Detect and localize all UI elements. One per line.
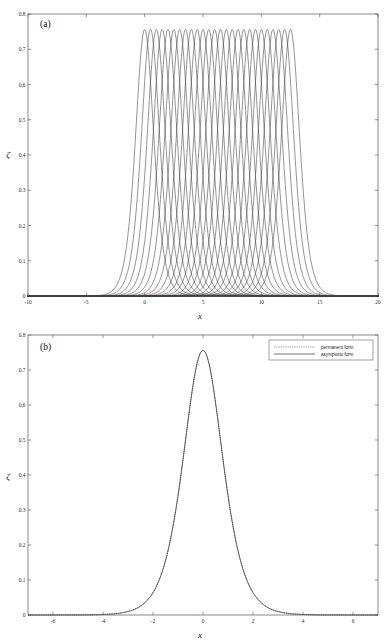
- x-tick-label: 4: [302, 618, 305, 624]
- panel-b-ticks: [28, 335, 378, 615]
- x-tick-label: 0: [143, 299, 146, 305]
- series-permanent-form: [28, 350, 378, 615]
- x-tick-label: -10: [24, 299, 31, 305]
- soliton-curve: [28, 30, 378, 296]
- soliton-curve: [28, 30, 378, 296]
- soliton-curve: [28, 30, 378, 296]
- soliton-curve: [28, 30, 378, 296]
- panel-b-frame: [28, 335, 378, 615]
- y-tick-label: 0.4: [19, 472, 26, 478]
- soliton-curve: [28, 30, 378, 296]
- soliton-curve: [28, 30, 378, 296]
- soliton-curve: [28, 30, 378, 296]
- soliton-curve: [28, 30, 378, 296]
- y-tick-label: 0.6: [19, 82, 26, 88]
- legend: permanent form asymptotic form: [269, 340, 373, 360]
- soliton-curve: [28, 30, 378, 296]
- x-tick-label: 10: [259, 299, 265, 305]
- y-tick-label: 0: [23, 612, 26, 618]
- panel-b-tag: (b): [40, 342, 51, 353]
- series-asymptotic-form: [28, 350, 378, 615]
- soliton-curve: [28, 30, 378, 296]
- y-tick-label: 0.5: [19, 437, 26, 443]
- x-tick-label: 2: [252, 618, 255, 624]
- y-tick-label: 0: [23, 293, 26, 299]
- panel-b-xlabel: x: [197, 630, 202, 640]
- y-tick-label: 0.3: [19, 187, 26, 193]
- x-tick-label: 20: [375, 299, 381, 305]
- x-tick-label: 0: [202, 618, 205, 624]
- figure-root: -10-50510152000.10.20.30.40.50.60.70.8 (…: [0, 0, 391, 644]
- y-tick-label: 0.5: [19, 117, 26, 123]
- panel-b-curves: [28, 350, 378, 615]
- x-tick-label: 6: [352, 618, 355, 624]
- y-tick-label: 0.3: [19, 507, 26, 513]
- x-tick-label: 5: [202, 299, 205, 305]
- soliton-curve: [28, 30, 378, 296]
- panel-b-ylabel: ζ: [6, 472, 11, 482]
- soliton-curve: [28, 30, 378, 296]
- soliton-curve: [28, 30, 378, 296]
- y-tick-label: 0.2: [19, 223, 26, 229]
- panel-b-plot: -6-4-2024600.10.20.30.40.50.60.70.8 perm…: [0, 325, 391, 644]
- soliton-curve: [28, 30, 378, 296]
- panel-a-plot: -10-50510152000.10.20.30.40.50.60.70.8 (…: [0, 0, 391, 325]
- panel-a-curves: [28, 30, 378, 296]
- x-tick-label: -4: [101, 618, 106, 624]
- y-tick-label: 0.2: [19, 542, 26, 548]
- y-tick-label: 0.1: [19, 577, 26, 583]
- panel-b-tick-labels: -6-4-2024600.10.20.30.40.50.60.70.8: [19, 332, 355, 624]
- panel-a-frame: [28, 14, 378, 296]
- y-tick-label: 0.6: [19, 402, 26, 408]
- soliton-curve: [28, 30, 378, 296]
- panel-a-tag: (a): [40, 19, 51, 30]
- soliton-curve: [28, 30, 378, 296]
- panel-a-xlabel: x: [197, 311, 202, 321]
- soliton-curve: [28, 30, 378, 296]
- soliton-curve: [28, 30, 378, 296]
- soliton-curve: [28, 30, 378, 296]
- y-tick-label: 0.7: [19, 46, 26, 52]
- x-tick-label: 15: [317, 299, 323, 305]
- y-tick-label: 0.8: [19, 332, 26, 338]
- panel-a: -10-50510152000.10.20.30.40.50.60.70.8 (…: [0, 0, 391, 325]
- legend-label-permanent-form: permanent form: [321, 345, 354, 350]
- legend-label-asymptotic-form: asymptotic form: [321, 352, 354, 357]
- panel-b: -6-4-2024600.10.20.30.40.50.60.70.8 perm…: [0, 325, 391, 644]
- soliton-curve: [28, 30, 378, 296]
- x-tick-label: -5: [84, 299, 89, 305]
- y-tick-label: 0.1: [19, 258, 26, 264]
- x-tick-label: -2: [151, 618, 156, 624]
- y-tick-label: 0.8: [19, 11, 26, 17]
- soliton-curve: [28, 30, 378, 296]
- legend-box: [269, 340, 373, 360]
- soliton-curve: [28, 30, 378, 296]
- panel-a-ticks: [28, 14, 378, 296]
- soliton-curve: [28, 30, 378, 296]
- soliton-curve: [28, 30, 378, 296]
- y-tick-label: 0.4: [19, 152, 26, 158]
- soliton-curve: [28, 30, 378, 296]
- x-tick-label: -6: [51, 618, 56, 624]
- soliton-curve: [28, 30, 378, 296]
- panel-a-ylabel: ζ: [6, 150, 11, 160]
- y-tick-label: 0.7: [19, 367, 26, 373]
